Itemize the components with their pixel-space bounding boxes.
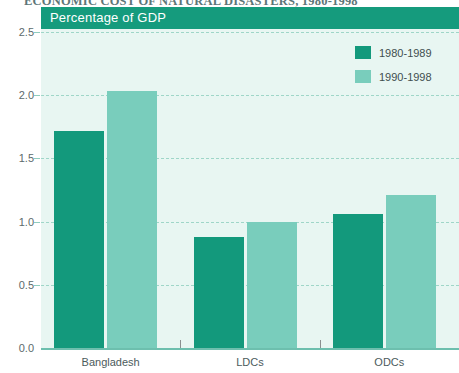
bar: [107, 91, 157, 348]
x-axis-category-label: ODCs: [374, 356, 404, 368]
y-axis: 0.00.51.01.52.02.5: [0, 0, 41, 373]
bar: [386, 195, 436, 348]
x-axis-baseline: [41, 348, 459, 350]
x-axis-tick-mark: [180, 340, 181, 348]
y-axis-tick-label: 2.0: [19, 89, 34, 101]
legend-item-label: 1980-1989: [379, 47, 432, 59]
legend-item: 1980-1989: [355, 46, 432, 59]
x-axis-category-label: LDCs: [236, 356, 264, 368]
chart-figure: ECONOMIC COST OF NATURAL DISASTERS, 1980…: [0, 0, 459, 373]
bar: [54, 131, 104, 348]
y-axis-tick-mark: [34, 32, 40, 33]
legend-item: 1990-1998: [355, 70, 432, 83]
y-axis-tick-label: 1.5: [19, 152, 34, 164]
y-axis-tick-mark: [34, 158, 40, 159]
legend-swatch-icon: [355, 70, 371, 83]
bar: [194, 237, 244, 348]
legend-item-label: 1990-1998: [379, 71, 432, 83]
y-axis-tick-mark: [34, 222, 40, 223]
y-axis-tick-label: 2.5: [19, 26, 34, 38]
chart-legend: 1980-1989 1990-1998: [355, 46, 432, 83]
y-axis-tick-label: 1.0: [19, 216, 34, 228]
y-axis-tick-label: 0.5: [19, 279, 34, 291]
bar: [247, 222, 297, 348]
x-axis-tick-mark: [320, 340, 321, 348]
y-axis-tick-mark: [34, 95, 40, 96]
y-axis-tick-mark: [34, 285, 40, 286]
y-axis-tick-label: 0.0: [19, 342, 34, 354]
legend-swatch-icon: [355, 46, 371, 59]
x-axis-category-label: Bangladesh: [82, 356, 140, 368]
bar: [333, 214, 383, 348]
